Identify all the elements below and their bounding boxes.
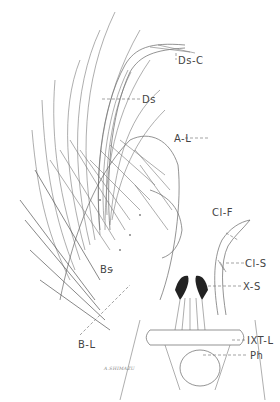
label-ixt-l: IXT-L: [247, 335, 274, 346]
label-cl-f: Cl-F: [212, 207, 233, 218]
label-ds: Ds: [142, 94, 156, 105]
artist-signature: A.SHIMAZU: [104, 366, 135, 371]
label-bs: Bs: [100, 264, 113, 275]
label-ds-c: Ds-C: [178, 55, 204, 66]
label-leader-lines: [80, 53, 247, 355]
basistyle-drawing: [20, 136, 182, 330]
label-b-l: B-L: [78, 339, 96, 350]
label-x-s: X-S: [243, 281, 261, 292]
long-setae: [32, 12, 165, 280]
ninth-tergite-phallosome-drawing: [120, 320, 265, 400]
label-cl-s: Cl-S: [245, 258, 267, 269]
illustration-drawing: [0, 0, 280, 402]
terminalia-illustration: Ds-C Ds A-L Cl-F Cl-S Bs X-S B-L IXT-L P…: [0, 0, 280, 402]
label-ph: Ph: [250, 350, 263, 361]
tenth-sternite-drawing: [175, 276, 208, 330]
label-a-l: A-L: [174, 133, 191, 144]
